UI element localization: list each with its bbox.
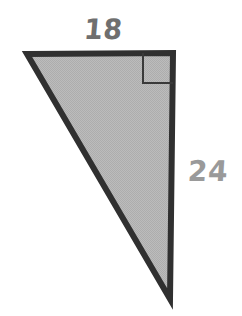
triangle-figure: 18 24 xyxy=(0,0,242,316)
triangle-shape xyxy=(27,53,173,299)
dimension-label-top: 18 xyxy=(83,15,124,43)
dimension-label-right: 24 xyxy=(187,158,229,187)
